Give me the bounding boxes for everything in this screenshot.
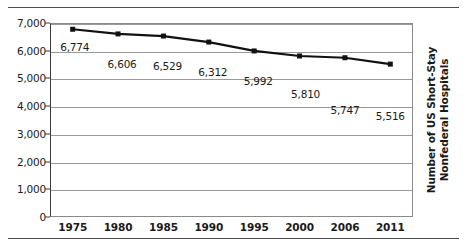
data-point-label: 5,516 <box>376 110 405 122</box>
data-point-marker <box>252 48 257 53</box>
y-axis-tick-label: 6,000 <box>2 45 46 57</box>
y-axis-tick-label: 0 <box>2 211 46 223</box>
data-point-label: 5,747 <box>330 104 359 116</box>
data-point-marker <box>70 27 75 32</box>
x-axis-tick-label: 2011 <box>362 221 418 233</box>
data-point-label: 6,606 <box>108 58 137 70</box>
y-axis-tick-label: 3,000 <box>2 128 46 140</box>
line-chart-figure: 01,0002,0003,0004,0005,0006,0007,000 197… <box>0 10 467 236</box>
hospital-count-series <box>50 23 413 217</box>
data-point-label: 6,774 <box>60 41 89 53</box>
y-axis-tick-label: 4,000 <box>2 100 46 112</box>
data-point-marker <box>116 31 121 36</box>
y-axis-title-line-2: Nonfederal Hospitals <box>438 47 451 194</box>
data-point-marker <box>206 40 211 45</box>
data-point-label: 5,810 <box>291 88 320 100</box>
y-axis-tick-label: 5,000 <box>2 72 46 84</box>
y-axis-tick-label: 2,000 <box>2 156 46 168</box>
y-axis-tick-label: 7,000 <box>2 17 46 29</box>
y-axis-tick-label: 1,000 <box>2 183 46 195</box>
data-point-label: 6,312 <box>198 66 227 78</box>
data-point-label: 5,992 <box>244 75 273 87</box>
data-point-marker <box>388 62 393 67</box>
top-divider-rule <box>8 7 459 8</box>
data-point-label: 6,529 <box>153 60 182 72</box>
data-point-marker <box>161 34 166 39</box>
y-axis-title: Number of US Short-Stay Nonfederal Hospi… <box>418 23 458 217</box>
data-point-marker <box>297 53 302 58</box>
bottom-divider-rule <box>8 238 459 239</box>
data-point-marker <box>342 55 347 60</box>
y-axis-title-line-1: Number of US Short-Stay <box>425 47 438 194</box>
